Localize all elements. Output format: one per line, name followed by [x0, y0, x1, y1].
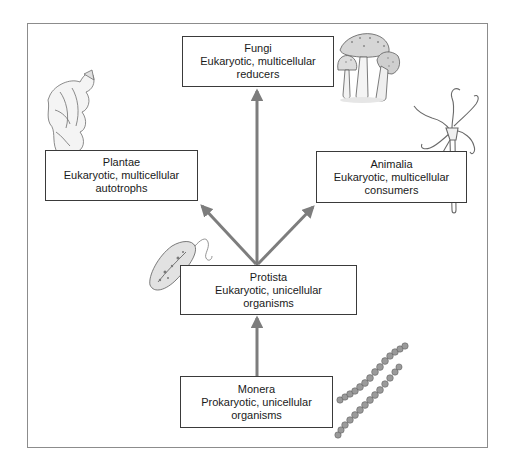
node-plantae-line2: autotrophs	[96, 182, 148, 195]
node-fungi-line1: Eukaryotic, multicellular	[200, 55, 316, 68]
arrow-protista-to-animalia	[258, 207, 313, 264]
node-protista-line2: organisms	[243, 297, 294, 310]
node-plantae: Plantae Eukaryotic, multicellular autotr…	[45, 150, 198, 201]
node-fungi-name: Fungi	[244, 42, 272, 55]
mushroom-illustration	[338, 34, 400, 103]
node-animalia-line2: consumers	[365, 184, 419, 197]
node-fungi-line2: reducers	[237, 68, 280, 81]
node-monera-name: Monera	[238, 383, 275, 396]
node-protista-line1: Eukaryotic, unicellular	[215, 284, 322, 297]
node-protista: Protista Eukaryotic, unicellular organis…	[180, 265, 357, 315]
node-animalia: Animalia Eukaryotic, multicellular consu…	[316, 151, 467, 203]
node-monera: Monera Prokaryotic, unicellular organism…	[180, 376, 333, 428]
node-plantae-name: Plantae	[103, 156, 140, 169]
node-monera-line2: organisms	[231, 409, 282, 422]
node-animalia-name: Animalia	[370, 158, 412, 171]
node-fungi: Fungi Eukaryotic, multicellular reducers	[182, 36, 334, 87]
node-monera-line1: Prokaryotic, unicellular	[201, 396, 312, 409]
seaweed-illustration	[48, 70, 94, 156]
bacteria-illustration	[335, 343, 408, 438]
node-protista-name: Protista	[250, 271, 287, 284]
node-plantae-line1: Eukaryotic, multicellular	[64, 169, 180, 182]
arrow-protista-to-plantae	[202, 206, 256, 264]
node-animalia-line1: Eukaryotic, multicellular	[334, 171, 450, 184]
